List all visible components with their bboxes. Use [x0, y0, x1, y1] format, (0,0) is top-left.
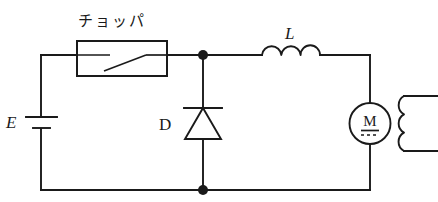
field-winding-coil — [399, 96, 404, 151]
bottom-junction-dot — [198, 185, 208, 195]
chopper-title-label: チョッパ — [78, 12, 146, 30]
inductor-coil — [262, 45, 320, 55]
diode-triangle — [185, 108, 221, 139]
inductor-label: L — [284, 24, 294, 43]
source-label: E — [5, 113, 17, 132]
chopper-box[interactable] — [77, 41, 167, 76]
top-junction-dot — [198, 50, 208, 60]
diode-label: D — [159, 115, 171, 134]
switch-blade — [104, 55, 146, 71]
circuit-schematic-canvas: チョッパ — [0, 0, 438, 202]
motor-label: M — [363, 113, 376, 129]
circuit-diagram: チョッパ — [0, 0, 438, 202]
